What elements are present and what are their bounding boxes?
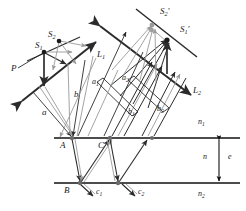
label-b1: b1 bbox=[128, 108, 135, 116]
beam-b1-bundle bbox=[112, 62, 162, 136]
label-L1: L1 bbox=[97, 50, 105, 59]
label-e: e bbox=[228, 153, 232, 161]
film-internal-rays-right bbox=[107, 139, 147, 182]
node-points bbox=[42, 23, 170, 186]
label-L2: L2 bbox=[193, 86, 201, 95]
beam-a-bundle bbox=[33, 86, 74, 136]
ray-b-edge3 bbox=[68, 64, 70, 134]
long-diagonal-rays bbox=[60, 32, 143, 137]
dot-C bbox=[108, 136, 112, 140]
optics-figure: P S1 S2 S2′ S1′ L1 L2 a b a2 a1 b1 b2 A … bbox=[0, 0, 246, 211]
ray-P-to-S1 bbox=[18, 53, 43, 68]
label-P: P bbox=[11, 64, 17, 73]
film-internal-rays-left bbox=[72, 139, 112, 182]
ray-B-to-C-1 bbox=[81, 140, 109, 182]
label-B: B bbox=[64, 186, 70, 195]
label-b: b bbox=[74, 90, 79, 99]
label-n: n bbox=[203, 153, 207, 161]
ray-D-up-1 bbox=[119, 140, 147, 182]
label-a: a bbox=[42, 108, 47, 117]
dot-A bbox=[70, 136, 74, 140]
label-S1: S1 bbox=[35, 41, 43, 50]
film-interfaces bbox=[54, 138, 240, 183]
ray-S2-right-grey bbox=[60, 41, 86, 46]
dot-S1prime bbox=[164, 37, 169, 42]
ray-to-S2p-1 bbox=[112, 26, 151, 70]
label-n1: n1 bbox=[198, 118, 205, 126]
dot-B bbox=[78, 181, 82, 185]
label-c1: c1 bbox=[96, 188, 102, 196]
label-a2: a2 bbox=[122, 74, 129, 82]
label-S2-prime: S2′ bbox=[160, 7, 170, 16]
label-C: C bbox=[98, 141, 104, 150]
ray-to-S2p-4 bbox=[155, 29, 156, 82]
label-a1: a1 bbox=[92, 78, 99, 86]
label-n2: n2 bbox=[198, 190, 205, 198]
incoming-ray-P bbox=[18, 53, 43, 68]
label-S2: S2 bbox=[48, 30, 56, 39]
label-c2: c2 bbox=[138, 188, 144, 196]
ray-S2-downright-grey bbox=[60, 42, 76, 64]
dot-right-top bbox=[150, 136, 154, 140]
dot-D bbox=[116, 181, 120, 185]
beam-b-bundle bbox=[68, 56, 93, 136]
dot-S2 bbox=[57, 39, 62, 44]
ray-S1p-down-grey bbox=[150, 27, 166, 41]
transmitted-rays bbox=[80, 184, 137, 196]
ray-b1-1 bbox=[112, 62, 152, 136]
label-b2: b2 bbox=[157, 105, 164, 113]
label-A: A bbox=[60, 141, 66, 150]
label-S1-prime: S1′ bbox=[180, 25, 190, 34]
ray-S2-down-grey bbox=[53, 42, 59, 70]
dot-S2prime bbox=[150, 23, 155, 28]
figure-canvas bbox=[0, 0, 246, 211]
ray-long-1 bbox=[78, 32, 126, 136]
